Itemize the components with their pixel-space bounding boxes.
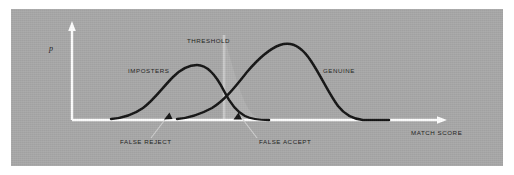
figure-container: p THRESHOLD IMPOSTERS GENUINE FALSE REJE…	[0, 0, 514, 175]
x-axis-arrowhead	[437, 116, 447, 124]
false-accept-region	[224, 36, 267, 120]
genuine-curve	[177, 44, 389, 120]
genuine-label: GENUINE	[323, 67, 355, 74]
false-reject-label: FALSE REJECT	[120, 138, 172, 145]
imposters-label: IMPOSTERS	[128, 67, 169, 74]
figure-plate: p THRESHOLD IMPOSTERS GENUINE FALSE REJE…	[11, 9, 503, 166]
false-reject-arrowhead	[164, 113, 173, 120]
false-accept-label: FALSE ACCEPT	[259, 138, 311, 145]
y-axis-arrowhead	[68, 21, 76, 31]
distribution-chart	[11, 9, 503, 166]
threshold-label: THRESHOLD	[187, 37, 230, 44]
x-axis-label: MATCH SCORE	[411, 129, 462, 136]
y-axis-label: p	[49, 44, 53, 53]
